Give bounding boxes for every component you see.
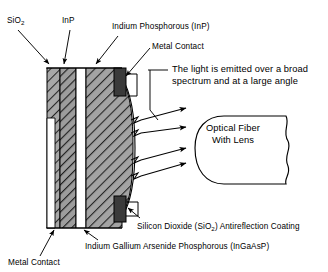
leader-ingaasp [84,230,98,240]
beam-3-ray [141,148,186,160]
label-ingaasp: Indium Gallium Arsenide Phosphorous (InG… [85,242,269,252]
label-inp-full: Indium Phosphorous (InP) [112,22,210,32]
label-ar-coating: Silicon Dioxide (SiO2) Antireflection Co… [137,222,300,234]
label-metal-contact-top: Metal Contact [152,42,204,52]
inp-layer [60,68,76,228]
beam-4-ray [141,163,186,176]
metal-contact-top [114,68,126,96]
leader-emission-elbow [150,70,158,120]
white-active-stripe [76,68,86,228]
leader-inp-full [96,36,118,64]
beam-2-ray [141,127,186,133]
leader-inp [64,30,70,64]
emission-beams [131,108,186,179]
leader-metal-top [126,48,150,76]
leader-sio2 [18,30,49,64]
leader-metal-bot [40,230,54,256]
label-optical-fiber: Optical Fiber With Lens [206,122,260,146]
metal-contact-bottom [114,196,126,222]
left-white-notch [47,118,55,228]
device-cross-section [46,68,138,228]
label-emission-note: The light is emitted over a broad spectr… [172,63,308,87]
diagram-canvas: SiO2 InP Indium Phosphorous (InP) Metal … [0,0,328,272]
label-metal-contact-bottom: Metal Contact [8,258,60,268]
label-sio2-top: SiO2 [7,16,25,28]
beam-1-ray [141,108,186,120]
label-inp-top: InP [62,16,75,26]
